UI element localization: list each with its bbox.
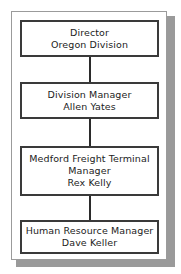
org-node-division-manager-line-2: Allen Yates [63,101,116,113]
connector-line-division-manager-to-terminal-manager [89,118,91,147]
org-node-terminal-manager[interactable]: Medford Freight Terminal Manager Rex Kel… [20,146,159,196]
connector-line-director-to-division-manager [89,56,91,83]
connector-line-terminal-manager-to-hr-manager [89,195,91,221]
org-node-terminal-manager-line-2: Manager [68,165,110,177]
org-node-division-manager[interactable]: Division Manager Allen Yates [20,82,159,119]
org-node-terminal-manager-line-3: Rex Kelly [68,177,112,189]
org-node-terminal-manager-line-1: Medford Freight Terminal [29,153,149,165]
org-node-hr-manager-line-2: Dave Keller [62,237,117,249]
org-node-director-line-2: Oregon Division [51,39,128,51]
org-node-director[interactable]: Director Oregon Division [20,20,159,57]
org-node-division-manager-line-1: Division Manager [48,89,132,101]
org-node-director-line-1: Director [70,27,109,39]
org-chart-canvas: Director Oregon Division Division Manage… [0,0,181,274]
org-node-hr-manager[interactable]: Human Resource Manager Dave Keller [20,220,159,254]
chart-card-frame: Director Oregon Division Division Manage… [11,11,167,260]
org-node-hr-manager-line-1: Human Resource Manager [26,225,154,237]
org-chart-diagram: Director Oregon Division Division Manage… [12,12,166,259]
